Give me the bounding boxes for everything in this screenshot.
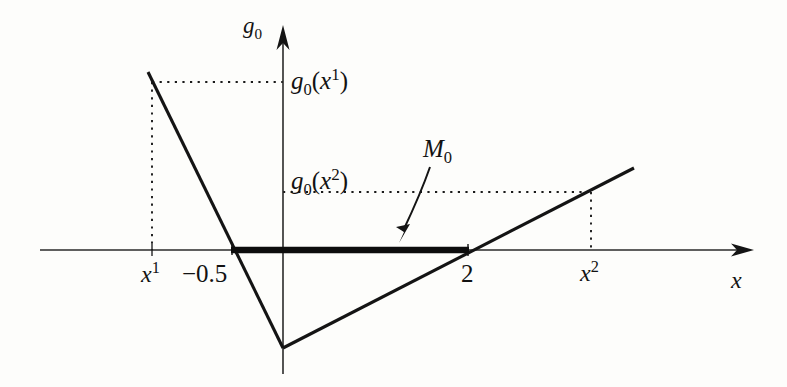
function-curve-g0 bbox=[148, 72, 634, 348]
axes-group bbox=[40, 25, 754, 374]
x-tick-label-x2: x2 bbox=[580, 259, 599, 285]
x-axis-label: x bbox=[731, 268, 742, 292]
plot-svg bbox=[0, 0, 787, 387]
m0-leader-arrow bbox=[396, 167, 430, 243]
label-g0-of-x2: g0(x2) bbox=[291, 166, 348, 199]
x-tick-label-two: 2 bbox=[461, 261, 474, 286]
x-tick-label-x1: x1 bbox=[141, 260, 160, 286]
figure-canvas: g0 x g0(x1) g0(x2) M0 x1 −0.5 2 x2 bbox=[0, 0, 787, 387]
label-g0-of-x1: g0(x1) bbox=[291, 66, 348, 99]
m0-leader-arrowhead bbox=[396, 224, 410, 243]
label-set-m0: M0 bbox=[423, 136, 452, 167]
y-axis-label: g0 bbox=[243, 14, 262, 41]
m0-leader-arrow-curve bbox=[403, 167, 430, 231]
x-tick-label-neg-half: −0.5 bbox=[182, 261, 227, 286]
g0-falling-branch bbox=[148, 72, 283, 348]
